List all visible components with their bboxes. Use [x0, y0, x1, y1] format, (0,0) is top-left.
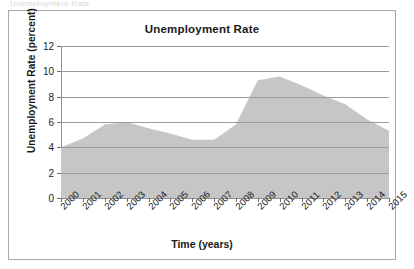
gridline-6	[61, 122, 389, 123]
y-tick-mark-12	[57, 46, 61, 47]
x-tick-label-2015: 2015	[386, 188, 409, 211]
y-tick-mark-8	[57, 97, 61, 98]
x-axis-title: Time (years)	[9, 238, 395, 250]
y-tick-mark-6	[57, 122, 61, 123]
y-tick-label-8: 8	[48, 91, 54, 102]
y-tick-label-4: 4	[48, 142, 54, 153]
figure-frame: Unemployment Rate Unemployment Rate (per…	[8, 10, 396, 260]
y-axis-title: Unemployment Rate (percent)	[26, 1, 37, 161]
gridline-10	[61, 71, 389, 72]
y-tick-mark-4	[57, 147, 61, 148]
gridline-8	[61, 97, 389, 98]
y-tick-mark-10	[57, 71, 61, 72]
y-tick-label-0: 0	[48, 193, 54, 204]
gridline-2	[61, 173, 389, 174]
plot-area: 024681012 200020012002200320042005200620…	[61, 46, 389, 198]
y-tick-label-12: 12	[43, 41, 54, 52]
y-tick-label-10: 10	[43, 66, 54, 77]
y-tick-mark-2	[57, 173, 61, 174]
gridline-4	[61, 147, 389, 148]
area-series-path	[61, 76, 389, 198]
y-tick-label-6: 6	[48, 117, 54, 128]
y-tick-label-2: 2	[48, 167, 54, 178]
gridline-12	[61, 46, 389, 47]
chart-title: Unemployment Rate	[9, 23, 395, 35]
